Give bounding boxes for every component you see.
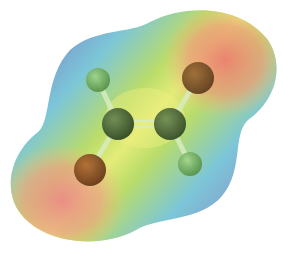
electrostatic-surface	[0, 2, 283, 256]
esp-map-figure	[0, 0, 283, 258]
carbon-atom	[154, 108, 186, 140]
chlorine-atom	[74, 154, 106, 186]
carbon-atom	[102, 108, 134, 140]
hydrogen-atom	[86, 68, 110, 92]
chlorine-atom	[182, 62, 214, 94]
hydrogen-atom	[178, 152, 202, 176]
